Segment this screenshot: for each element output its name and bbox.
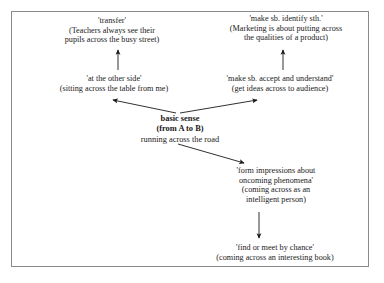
node-identify: 'make sb. identify sth.' (Marketing is a… <box>196 14 376 43</box>
node-impressions-line-3: (coming across as an <box>190 185 362 195</box>
node-transfer-line-3: pupils across the busy street) <box>22 35 202 45</box>
node-other-side-line-1: 'at the other side' <box>28 74 200 84</box>
node-find-meet: 'find or meet by chance' (coming across … <box>182 243 368 262</box>
node-impressions-line-2: oncoming phenomena' <box>190 176 362 186</box>
node-basic-sense-title: basic sense <box>92 114 268 124</box>
node-other-side-line-2: (sitting across the table from me) <box>28 84 200 94</box>
node-accept: 'make sb. accept and understand' (get id… <box>192 74 368 93</box>
node-basic-sense: basic sense (from A to B) running across… <box>92 114 268 145</box>
node-impressions-line-4: intelligent person) <box>190 195 362 205</box>
node-basic-sense-subtitle: (from A to B) <box>92 124 268 134</box>
node-find-meet-line-1: 'find or meet by chance' <box>182 243 368 253</box>
node-identify-line-1: 'make sb. identify sth.' <box>196 14 376 24</box>
node-find-meet-line-2: (coming across an interesting book) <box>182 253 368 263</box>
node-transfer: 'transfer' (Teachers always see their pu… <box>22 16 202 45</box>
node-accept-line-2: (get ideas across to audience) <box>192 84 368 94</box>
node-impressions: 'form impressions about oncoming phenome… <box>190 166 362 205</box>
node-identify-line-3: the qualities of a product) <box>196 33 376 43</box>
node-accept-line-1: 'make sb. accept and understand' <box>192 74 368 84</box>
node-transfer-line-1: 'transfer' <box>22 16 202 26</box>
node-impressions-line-1: 'form impressions about <box>190 166 362 176</box>
diagram-root: 'transfer' (Teachers always see their pu… <box>0 0 384 283</box>
node-basic-sense-example: running across the road <box>92 135 268 145</box>
node-transfer-line-2: (Teachers always see their <box>22 26 202 36</box>
node-identify-line-2: (Marketing is about putting across <box>196 24 376 34</box>
node-other-side: 'at the other side' (sitting across the … <box>28 74 200 93</box>
